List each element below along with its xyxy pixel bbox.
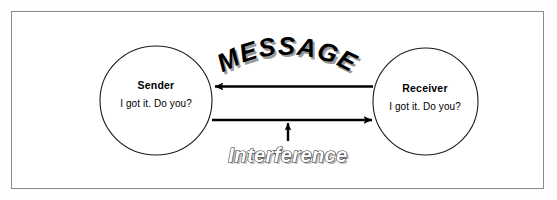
- sender-node-title: Sender: [100, 80, 212, 91]
- receiver-node-title: Receiver: [372, 83, 478, 94]
- interference-label: Interference: [228, 144, 347, 166]
- sender-node-quote: I got it. Do you?: [100, 99, 212, 109]
- diagram-graphics: MESSAGE MESSAGE Interference Interferenc…: [0, 0, 557, 200]
- receiver-node-quote: I got it. Do you?: [372, 102, 478, 112]
- diagram-root: MESSAGE MESSAGE Interference Interferenc…: [0, 0, 557, 200]
